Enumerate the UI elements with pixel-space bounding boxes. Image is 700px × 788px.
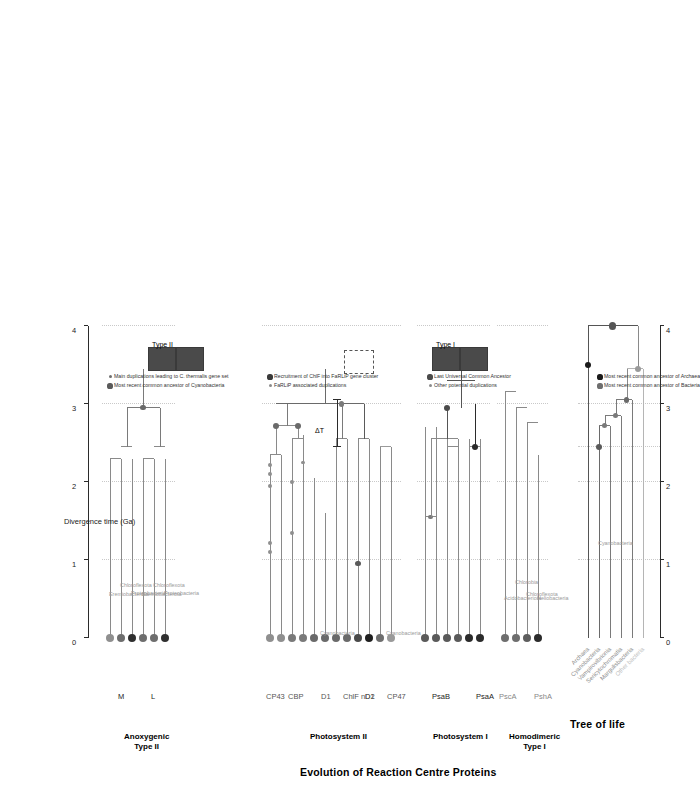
gene-tip-node <box>161 634 169 642</box>
gene-name-label: CP43 <box>266 692 285 701</box>
ps2-node <box>273 423 279 429</box>
axis-tick-label: 4 <box>72 326 76 335</box>
gene-tip-node <box>365 634 373 642</box>
panel-title-anoxygenic-type-ii: Anoxygenic Type II <box>124 732 169 752</box>
node-luca <box>609 322 616 329</box>
gene-name-label: D1 <box>321 692 331 701</box>
figure-title: Evolution of Reaction Centre Proteins <box>300 766 496 778</box>
gene-taxon-label-cyanobacteria: Cyanobacteria <box>386 630 421 636</box>
legend-marker <box>269 385 272 388</box>
legend-marker <box>597 374 602 379</box>
type-i-box-label: Type I <box>436 341 455 348</box>
gene-taxon-label: Chloroflexota <box>153 582 185 588</box>
psaB-root-node <box>444 405 450 411</box>
unfilled-clade-box <box>344 350 374 374</box>
psaA-node <box>472 444 478 450</box>
gene-tip-node <box>266 634 274 642</box>
gene-tip-node <box>117 634 125 642</box>
panel-title-photosystem-ii: Photosystem II <box>310 732 367 741</box>
gene-taxon-label: Proteobacteria <box>164 590 199 596</box>
farlip-duplication-node <box>268 550 272 554</box>
axis-tick-label: 2 <box>666 482 670 491</box>
legend-label: Recruitment of ChlF into FaRLiP gene clu… <box>274 373 378 379</box>
gene-taxon-label-cyanobacteria: Cyanobacteria <box>320 630 355 636</box>
gene-tip-node <box>476 634 484 642</box>
axis-tick-label: 1 <box>72 560 76 569</box>
legend-label: Most recent common ancestor of Bacteria <box>604 382 700 388</box>
gene-tip-node <box>443 634 451 642</box>
legend-marker <box>107 383 112 388</box>
gene-name-label: PscA <box>499 692 517 701</box>
farlip-duplication-node <box>268 484 272 488</box>
legend-marker <box>267 374 272 379</box>
type-ii-clade-box-2 <box>176 347 204 371</box>
tol-inline-label-cyanobacteria: Cyanobacteria <box>598 541 633 547</box>
legend-label: Other potential duplications <box>434 382 497 388</box>
gene-tip-node <box>310 634 318 642</box>
gene-tip-node <box>106 634 114 642</box>
tree-of-life-title: Tree of life <box>570 718 625 730</box>
ps2-node <box>295 423 301 429</box>
time-axis <box>88 326 89 638</box>
gene-tip-node <box>512 634 520 642</box>
gene-name-label: M <box>118 692 124 701</box>
gene-tip-node <box>288 634 296 642</box>
axis-tick-label: 1 <box>666 560 670 569</box>
gene-tip-node <box>421 634 429 642</box>
node-vampirovibrionia <box>602 423 607 428</box>
farlip-duplication-node <box>290 480 294 484</box>
chlf-recruitment-node <box>355 561 360 566</box>
axis-tick-label: 3 <box>666 404 670 413</box>
gene-tip-node <box>523 634 531 642</box>
gene-tip-node <box>354 634 362 642</box>
type-ii-clade-box <box>148 347 176 371</box>
node-margulisbacteria <box>624 397 630 403</box>
delta-t-label: ΔT <box>315 428 324 435</box>
node-mrca-archaea <box>585 362 592 369</box>
gene-name-label: PsaA <box>476 692 494 701</box>
legend-label: Main duplications leading to C. thermali… <box>114 373 228 379</box>
node-mrca-cyanobacteria <box>596 444 602 450</box>
legend-label: Last Universal Common Ancestor <box>434 373 511 379</box>
gene-name-label: PsaB <box>432 692 450 701</box>
gene-name-label: L <box>151 692 155 701</box>
node-mrca-bacteria <box>635 366 641 372</box>
farlip-duplication-node <box>268 541 272 545</box>
legend-label: FaRLiP associated duplications <box>274 382 346 388</box>
gene-tip-node <box>299 634 307 642</box>
gene-tip-node <box>501 634 509 642</box>
gene-tip-node <box>376 634 384 642</box>
gene-tip-node <box>277 634 285 642</box>
node-sericytochromatia <box>613 413 618 418</box>
gene-name-label: CBP <box>288 692 303 701</box>
legend-marker <box>429 385 432 388</box>
type-ii-box-label: Type II <box>152 341 173 348</box>
gene-tip-node <box>465 634 473 642</box>
axis-tick-label: 4 <box>666 326 670 335</box>
farlip-duplication-node <box>268 472 272 476</box>
type2-root-node <box>140 405 145 410</box>
gene-taxon-label: Chlorobia <box>515 580 538 586</box>
axis-caption: Divergence time (Ga) <box>64 517 135 526</box>
axis-tick-label: 0 <box>666 638 670 647</box>
legend-label: Most recent common ancestor of Cyanobact… <box>114 382 224 388</box>
gene-name-label: D2 <box>365 692 375 701</box>
type-i-clade-box <box>432 347 460 371</box>
gene-name-label: CP47 <box>387 692 406 701</box>
gene-name-label: PshA <box>534 692 552 701</box>
axis-tick-label: 3 <box>72 404 76 413</box>
gene-tip-node <box>534 634 542 642</box>
axis-tick-label: 2 <box>72 482 76 491</box>
axis-tick-label: 0 <box>72 638 76 647</box>
type-i-clade-box-2 <box>460 347 488 371</box>
delta-t-bar <box>337 400 338 447</box>
legend-marker <box>427 374 432 379</box>
legend-label: Most recent common ancestor of Archaea <box>604 373 700 379</box>
legend-marker <box>597 383 602 388</box>
farlip-duplication-node <box>268 463 272 467</box>
gene-taxon-label: Chloroflexota <box>120 582 152 588</box>
gene-tip-node <box>454 634 462 642</box>
gene-tip-node <box>432 634 440 642</box>
panel-title-photosystem-i: Photosystem I <box>433 732 488 741</box>
